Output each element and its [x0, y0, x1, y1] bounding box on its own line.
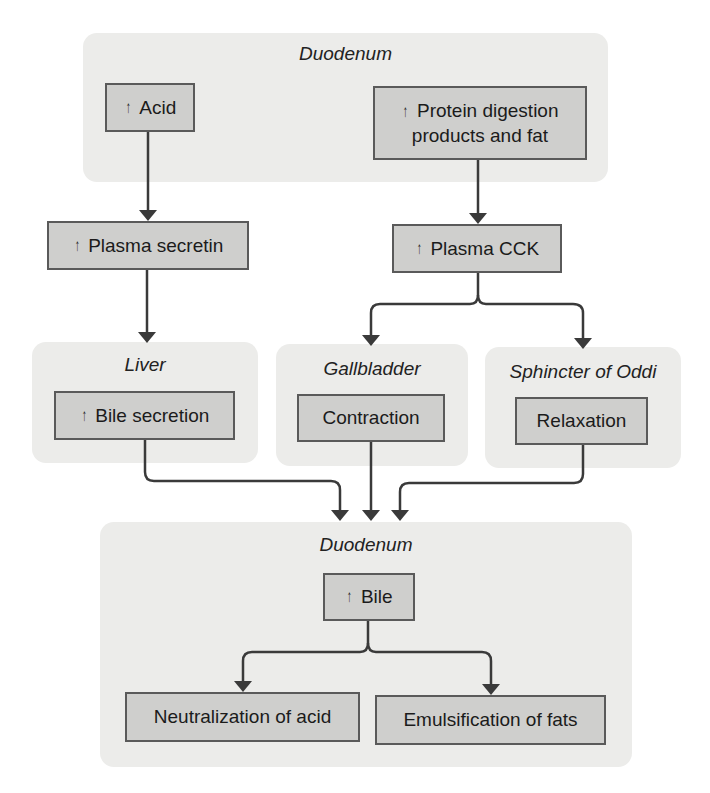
- box-plasma-cck-label: Plasma CCK: [430, 237, 539, 261]
- box-protein-line1: Protein digestion: [417, 100, 559, 121]
- box-bile-label: Bile: [361, 585, 393, 609]
- box-bile-secretion: ↑ Bile secretion: [54, 391, 235, 440]
- arrowhead-icon: [469, 213, 487, 224]
- box-acid: ↑ Acid: [105, 83, 195, 132]
- increase-arrow-icon: ↑: [403, 100, 408, 124]
- arrowhead-icon: [391, 510, 409, 521]
- box-neutralization-of-acid: Neutralization of acid: [125, 692, 360, 742]
- box-acid-label: Acid: [139, 96, 176, 120]
- box-bile-secretion-label: Bile secretion: [95, 404, 209, 428]
- box-emulsification-label: Emulsification of fats: [403, 708, 577, 732]
- box-neutralization-label: Neutralization of acid: [154, 705, 331, 729]
- box-emulsification-of-fats: Emulsification of fats: [375, 695, 606, 745]
- box-bile: ↑ Bile: [323, 573, 415, 621]
- region-title-duodenum-top: Duodenum: [83, 43, 608, 65]
- arrow-cck-branch: [371, 273, 478, 337]
- box-plasma-cck: ↑ Plasma CCK: [392, 224, 562, 273]
- box-plasma-secretin: ↑ Plasma secretin: [47, 221, 249, 270]
- increase-arrow-icon: ↑: [74, 234, 79, 258]
- box-contraction-label: Contraction: [322, 406, 419, 430]
- region-title-duodenum-bottom: Duodenum: [100, 534, 632, 556]
- increase-arrow-icon: ↑: [125, 96, 130, 120]
- arrowhead-icon: [331, 510, 349, 521]
- increase-arrow-icon: ↑: [81, 404, 86, 428]
- box-contraction: Contraction: [297, 394, 445, 442]
- box-plasma-secretin-label: Plasma secretin: [88, 234, 223, 258]
- region-title-sphincter-of-oddi: Sphincter of Oddi: [485, 361, 681, 383]
- box-protein-digestion-products: ↑Protein digestion products and fat: [373, 86, 587, 160]
- region-title-gallbladder: Gallbladder: [276, 358, 468, 380]
- box-protein-line2: products and fat: [401, 124, 558, 148]
- arrowhead-icon: [362, 510, 380, 521]
- arrowhead-icon: [139, 210, 157, 221]
- increase-arrow-icon: ↑: [417, 237, 422, 261]
- box-relaxation: Relaxation: [515, 397, 648, 445]
- region-title-liver: Liver: [32, 354, 258, 376]
- box-relaxation-label: Relaxation: [537, 409, 627, 433]
- increase-arrow-icon: ↑: [347, 585, 352, 609]
